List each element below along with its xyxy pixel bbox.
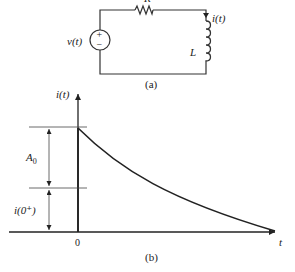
amplitude-subscript: 0: [33, 157, 37, 166]
current-label: i(t): [212, 12, 226, 25]
x-axis-label: t: [279, 236, 283, 248]
decay-curve: [78, 128, 275, 231]
current-arrow-icon: [203, 13, 209, 18]
y-axis-label: i(t): [56, 88, 70, 101]
diagram-canvas: R + − v(t) i(t) L (a) i(t) t 0: [0, 0, 295, 272]
amplitude-label: A0: [25, 151, 37, 166]
source-minus: −: [97, 39, 103, 50]
circuit-caption: (a): [145, 78, 158, 91]
top-wire: [100, 10, 206, 30]
inductor: [206, 21, 211, 62]
graph-caption: (b): [145, 251, 158, 264]
source-label: v(t): [67, 35, 83, 48]
resistor: [135, 6, 153, 14]
initial-current-label: i(0⁺): [14, 204, 36, 217]
resistor-label: R: [143, 0, 151, 4]
rl-circuit: R + − v(t) i(t) L (a): [67, 0, 226, 91]
inductor-label: L: [189, 46, 196, 58]
current-response-graph: i(t) t 0 A0 i(0⁺) (b): [9, 88, 283, 264]
origin-label: 0: [75, 237, 80, 248]
